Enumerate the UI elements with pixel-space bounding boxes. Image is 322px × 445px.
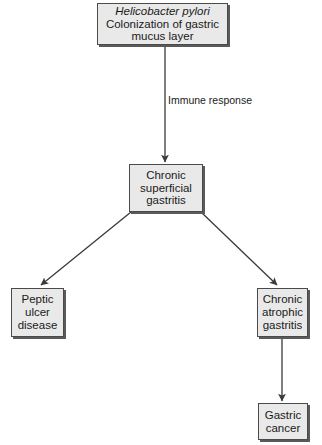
node-gastric-cancer: Gastric cancer [258, 403, 308, 440]
node-line-2: atrophic [262, 306, 303, 319]
edge-label-line-2: response [209, 94, 252, 106]
node-line-2: ulcer [18, 306, 58, 319]
edge-label-line-1: Immune [168, 94, 206, 106]
arrow-superficial-to-atrophic [201, 212, 277, 285]
node-peptic-ulcer-disease-text: Peptic ulcer disease [15, 293, 61, 332]
arrow-layer [0, 0, 322, 445]
node-chronic-superficial-gastritis-text: Chronic superficial gastritis [137, 169, 195, 208]
node-chronic-superficial-gastritis: Chronic superficial gastritis [129, 164, 203, 212]
node-line-2: cancer [265, 422, 301, 435]
arrow-superficial-to-peptic-ulcer [41, 212, 131, 285]
node-line-3: mucus layer [106, 30, 219, 43]
node-peptic-ulcer-disease: Peptic ulcer disease [11, 288, 64, 337]
node-helicobacter-pylori-text: Helicobacter pylori Colonization of gast… [103, 5, 222, 44]
node-line-1: Chronic [262, 293, 303, 306]
node-line-1: Peptic [18, 293, 58, 306]
node-line-3: disease [18, 319, 58, 332]
edge-label-immune-response: Immune response [168, 94, 252, 107]
node-line-2: Colonization of gastric [106, 18, 219, 31]
flowchart-diagram: Helicobacter pylori Colonization of gast… [0, 0, 322, 445]
node-chronic-atrophic-gastritis: Chronic atrophic gastritis [257, 288, 308, 337]
species-name-label: Helicobacter pylori [106, 5, 219, 18]
node-helicobacter-pylori: Helicobacter pylori Colonization of gast… [97, 3, 228, 45]
node-chronic-atrophic-gastritis-text: Chronic atrophic gastritis [259, 293, 306, 332]
node-line-2: superficial [140, 182, 192, 195]
node-gastric-cancer-text: Gastric cancer [262, 409, 304, 435]
node-line-1: Chronic [140, 169, 192, 182]
node-line-3: gastritis [140, 194, 192, 207]
node-line-1: Gastric [265, 409, 301, 422]
node-line-3: gastritis [262, 319, 303, 332]
